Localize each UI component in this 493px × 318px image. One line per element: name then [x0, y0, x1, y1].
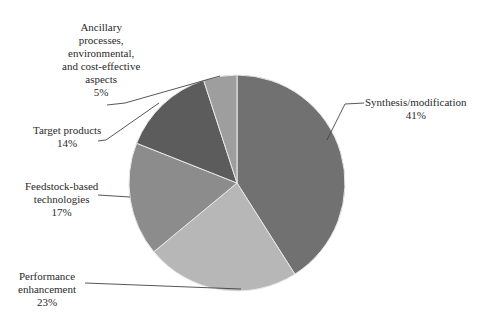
leader-line: [98, 195, 130, 197]
label-text: Synthesis/modification: [365, 96, 466, 109]
label-text: Performance: [18, 270, 76, 283]
label-percent: 17%: [25, 206, 98, 219]
label-synthesis: Synthesis/modification 41%: [365, 96, 466, 122]
label-feedstock: Feedstock-based technologies 17%: [25, 180, 98, 219]
label-text: processes,: [62, 34, 140, 47]
label-text: technologies: [25, 193, 98, 206]
label-text: Ancillary: [62, 21, 140, 34]
label-percent: 41%: [365, 109, 466, 122]
label-text: Target products: [33, 124, 101, 137]
label-text: and cost-effective: [62, 60, 140, 73]
label-ancillary: Ancillary processes, environmental, and …: [62, 21, 140, 99]
label-percent: 23%: [18, 296, 76, 309]
label-text: Feedstock-based: [25, 180, 98, 193]
label-text: environmental,: [62, 47, 140, 60]
label-text: aspects: [62, 73, 140, 86]
label-target: Target products 14%: [33, 124, 101, 150]
label-percent: 14%: [33, 137, 101, 150]
label-text: enhancement: [18, 283, 76, 296]
label-performance: Performance enhancement 23%: [18, 270, 76, 309]
label-percent: 5%: [62, 86, 140, 99]
